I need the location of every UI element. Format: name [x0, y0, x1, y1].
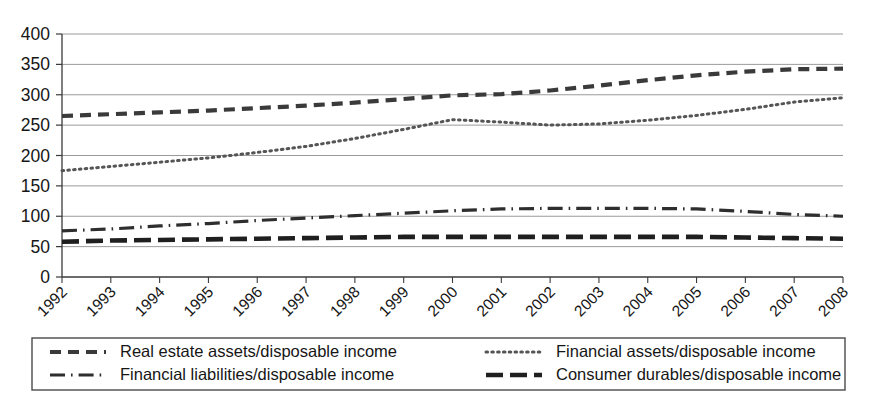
y-axis-tick-label: 200: [21, 146, 50, 166]
x-axis-tick-label: 2003: [571, 283, 607, 319]
x-axis-ticks: [62, 277, 843, 283]
legend: Real estate assets/disposable incomeFina…: [50, 342, 841, 383]
x-axis-tick-label: 1997: [278, 283, 314, 319]
y-axis-tick-label: 300: [21, 85, 50, 105]
x-axis-tick-label: 1994: [131, 283, 168, 320]
x-axis-tick-label: 2004: [619, 283, 656, 320]
y-axis-tick-label: 0: [40, 267, 50, 287]
y-axis-tick-label: 250: [21, 115, 50, 135]
y-axis-tick-labels: 050100150200250300350400: [21, 24, 50, 287]
legend-label-4: Consumer durables/disposable income: [556, 365, 841, 383]
x-axis-tick-labels: 1992199319941995199619971998199920002001…: [34, 283, 851, 320]
legend-label-3: Financial liabilities/disposable income: [120, 365, 394, 383]
x-axis-tick-label: 1996: [229, 283, 265, 319]
x-axis-tick-label: 1999: [375, 283, 411, 319]
x-axis-tick-label: 2001: [473, 283, 509, 319]
x-axis-tick-label: 2008: [815, 283, 851, 319]
x-axis-tick-label: 2006: [717, 283, 753, 319]
line-chart: 050100150200250300350400 199219931994199…: [0, 0, 873, 420]
x-axis-tick-label: 1992: [34, 283, 70, 319]
chart-container: 050100150200250300350400 199219931994199…: [0, 0, 873, 420]
x-axis-tick-label: 1995: [180, 283, 216, 319]
y-axis-tick-label: 400: [21, 24, 50, 44]
x-axis-tick-label: 2005: [668, 283, 704, 319]
y-axis-tick-label: 150: [21, 176, 50, 196]
legend-label-2: Financial assets/disposable income: [556, 342, 816, 360]
x-axis-tick-label: 1993: [83, 283, 119, 319]
x-axis-tick-label: 2007: [766, 283, 802, 319]
y-axis-tick-label: 350: [21, 54, 50, 74]
x-axis-tick-label: 2000: [424, 283, 461, 320]
legend-label-1: Real estate assets/disposable income: [120, 342, 397, 360]
x-axis-tick-label: 1998: [327, 283, 363, 319]
y-axis-ticks: [56, 34, 62, 277]
y-axis-tick-label: 100: [21, 206, 50, 226]
y-axis-tick-label: 50: [31, 237, 51, 257]
x-axis-tick-label: 2002: [522, 283, 558, 319]
